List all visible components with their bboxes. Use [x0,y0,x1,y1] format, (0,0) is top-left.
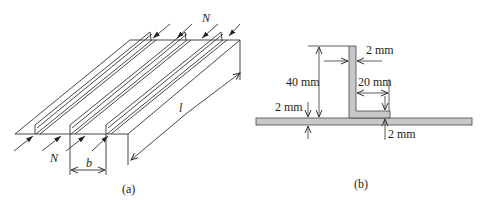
load-label-bottom: N [50,152,58,164]
caption-b: (b) [354,178,368,190]
flange-width-label: 20 mm [358,76,392,88]
flange-thickness-label: 2 mm [388,128,416,140]
caption-a: (a) [122,183,135,195]
plate-thickness-label: 2 mm [275,101,303,113]
length-label: l [179,102,182,114]
load-arrows-back [153,24,240,38]
spacing-label: b [86,157,92,169]
load-arrows-front [14,136,108,151]
web-height-label: 40 mm [286,76,320,88]
web-thickness-label: 2 mm [366,44,394,56]
plate-section [256,118,472,125]
section-dimensions [308,46,389,140]
plate-right-edge [128,40,240,134]
load-label-top: N [202,12,210,24]
length-dimension [131,40,240,160]
diagram-canvas [0,0,482,203]
